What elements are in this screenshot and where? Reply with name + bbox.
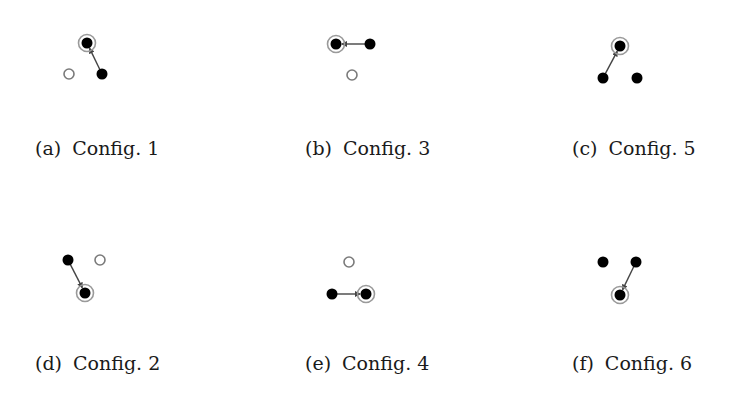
open-node-icon [64,69,74,79]
filled-node-icon [327,289,338,300]
filled-node-icon [632,73,643,84]
filled-node-icon [615,41,626,52]
caption-label: (a) [35,137,61,159]
filled-node-icon [331,39,342,50]
caption-label: (e) [305,352,331,374]
filled-node-icon [361,289,372,300]
filled-node-icon [63,255,74,266]
caption-a: (a)Config. 1 [35,137,159,159]
caption-label: (f) [572,352,594,374]
configuration-diagrams [0,0,747,409]
caption-d: (d)Config. 2 [35,352,160,374]
open-node-icon [344,257,354,267]
arrow-edge [623,266,634,289]
panel-c [598,38,643,84]
caption-title: Config. 6 [605,352,692,374]
caption-label: (b) [305,137,332,159]
filled-node-icon [598,73,609,84]
caption-f: (f)Config. 6 [572,352,692,374]
open-node-icon [347,70,357,80]
caption-label: (d) [35,352,62,374]
filled-node-icon [615,290,626,301]
filled-node-icon [97,69,108,80]
panel-b [328,36,376,81]
caption-b: (b)Config. 3 [305,137,430,159]
panel-a [64,35,108,80]
filled-node-icon [80,288,91,299]
panel-d [63,255,106,302]
caption-title: Config. 3 [343,137,430,159]
filled-node-icon [598,257,609,268]
filled-node-icon [365,39,376,50]
arrow-edge [90,48,100,69]
filled-node-icon [631,257,642,268]
caption-label: (c) [572,137,597,159]
caption-c: (c)Config. 5 [572,137,696,159]
arrow-edge [605,51,617,73]
panel-f [598,257,642,304]
caption-title: Config. 1 [72,137,159,159]
caption-title: Config. 5 [608,137,695,159]
panel-e [327,257,375,303]
filled-node-icon [82,38,93,49]
caption-e: (e)Config. 4 [305,352,429,374]
caption-title: Config. 2 [73,352,160,374]
arrow-edge [70,264,82,287]
open-node-icon [95,255,105,265]
caption-title: Config. 4 [342,352,429,374]
